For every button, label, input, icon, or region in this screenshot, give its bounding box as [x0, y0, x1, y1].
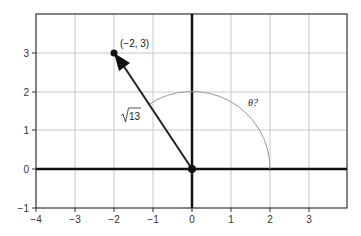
- y-tick-label: −1: [18, 203, 30, 214]
- y-tick-label: 0: [23, 164, 29, 175]
- y-tick-labels: −1 0 1 2 3: [18, 48, 30, 214]
- arrowhead-icon: [114, 53, 130, 71]
- x-tick-label: −4: [30, 214, 42, 225]
- x-tick-label: 1: [228, 214, 234, 225]
- endpoint-dot: [111, 50, 118, 57]
- x-tick-label: −3: [69, 214, 81, 225]
- length-label: 13: [121, 108, 141, 122]
- origin-dot: [188, 165, 196, 173]
- y-tick-label: 2: [23, 87, 29, 98]
- point-label: (−2, 3): [120, 38, 149, 49]
- length-label-radicand: 13: [129, 111, 141, 122]
- vector-angle-diagram: −4 −3 −2 −1 0 1 2 3 −1 0 1 2 3 (−2, 3) 1…: [0, 0, 361, 236]
- tick-marks: [32, 53, 309, 212]
- angle-label: θ?: [248, 97, 258, 108]
- x-tick-label: −2: [108, 214, 120, 225]
- x-tick-labels: −4 −3 −2 −1 0 1 2 3: [30, 214, 312, 225]
- x-tick-label: 2: [267, 214, 273, 225]
- y-tick-label: 1: [23, 125, 29, 136]
- x-tick-label: −1: [147, 214, 159, 225]
- x-tick-label: 0: [189, 214, 195, 225]
- x-tick-label: 3: [306, 214, 312, 225]
- y-tick-label: 3: [23, 48, 29, 59]
